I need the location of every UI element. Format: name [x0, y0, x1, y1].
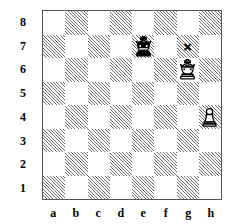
rank-label-8: 8 — [10, 10, 36, 34]
square-h6[interactable] — [199, 58, 221, 82]
square-d2[interactable] — [110, 152, 132, 176]
square-g3[interactable] — [177, 129, 199, 153]
square-d6[interactable] — [110, 58, 132, 82]
square-b1[interactable] — [65, 176, 87, 200]
square-f2[interactable] — [154, 152, 176, 176]
square-d4[interactable] — [110, 105, 132, 129]
square-h2[interactable] — [199, 152, 221, 176]
square-h1[interactable] — [199, 176, 221, 200]
square-b4[interactable] — [65, 105, 87, 129]
square-b2[interactable] — [65, 152, 87, 176]
square-h4[interactable] — [199, 105, 221, 129]
square-c1[interactable] — [88, 176, 110, 200]
square-b5[interactable] — [65, 82, 87, 106]
white-king-icon — [177, 58, 199, 82]
square-h7[interactable] — [199, 35, 221, 59]
square-d3[interactable] — [110, 129, 132, 153]
square-f6[interactable] — [154, 58, 176, 82]
file-label-b: b — [65, 203, 88, 222]
square-a3[interactable] — [43, 129, 65, 153]
cross-mark: × — [177, 35, 199, 59]
square-f7[interactable] — [154, 35, 176, 59]
rank-label-5: 5 — [10, 81, 36, 105]
file-label-a: a — [42, 203, 65, 222]
file-label-row: a b c d e f g h — [42, 203, 222, 222]
square-a2[interactable] — [43, 152, 65, 176]
square-e4[interactable] — [132, 105, 154, 129]
square-d8[interactable] — [110, 11, 132, 35]
square-g1[interactable] — [177, 176, 199, 200]
square-d1[interactable] — [110, 176, 132, 200]
square-e6[interactable] — [132, 58, 154, 82]
square-a6[interactable] — [43, 58, 65, 82]
square-c6[interactable] — [88, 58, 110, 82]
file-label-f: f — [155, 203, 178, 222]
chess-board: × — [42, 10, 222, 200]
rank-label-column: 8 7 6 5 4 3 2 1 — [10, 10, 36, 200]
square-f8[interactable] — [154, 11, 176, 35]
square-g2[interactable] — [177, 152, 199, 176]
square-b3[interactable] — [65, 129, 87, 153]
square-b7[interactable] — [65, 35, 87, 59]
square-a5[interactable] — [43, 82, 65, 106]
file-label-h: h — [200, 203, 223, 222]
square-a8[interactable] — [43, 11, 65, 35]
rank-label-7: 7 — [10, 34, 36, 58]
square-h5[interactable] — [199, 82, 221, 106]
chess-diagram: 8 7 6 5 4 3 2 1 × — [0, 0, 247, 224]
file-label-d: d — [110, 203, 133, 222]
white-pawn-icon — [199, 105, 221, 129]
square-c8[interactable] — [88, 11, 110, 35]
square-a1[interactable] — [43, 176, 65, 200]
square-f1[interactable] — [154, 176, 176, 200]
square-g7[interactable]: × — [177, 35, 199, 59]
square-c2[interactable] — [88, 152, 110, 176]
square-c4[interactable] — [88, 105, 110, 129]
square-e8[interactable] — [132, 11, 154, 35]
rank-label-4: 4 — [10, 105, 36, 129]
rank-label-3: 3 — [10, 129, 36, 153]
square-d5[interactable] — [110, 82, 132, 106]
black-king-icon — [132, 35, 154, 59]
square-e2[interactable] — [132, 152, 154, 176]
square-d7[interactable] — [110, 35, 132, 59]
square-h3[interactable] — [199, 129, 221, 153]
square-a4[interactable] — [43, 105, 65, 129]
square-f4[interactable] — [154, 105, 176, 129]
square-e7[interactable] — [132, 35, 154, 59]
square-h8[interactable] — [199, 11, 221, 35]
square-a7[interactable] — [43, 35, 65, 59]
file-label-e: e — [132, 203, 155, 222]
rank-label-1: 1 — [10, 176, 36, 200]
square-g6[interactable] — [177, 58, 199, 82]
file-label-c: c — [87, 203, 110, 222]
square-g4[interactable] — [177, 105, 199, 129]
rank-label-2: 2 — [10, 153, 36, 177]
square-e5[interactable] — [132, 82, 154, 106]
square-b6[interactable] — [65, 58, 87, 82]
square-c7[interactable] — [88, 35, 110, 59]
rank-label-6: 6 — [10, 58, 36, 82]
square-g8[interactable] — [177, 11, 199, 35]
board-grid: × — [43, 11, 221, 199]
square-c3[interactable] — [88, 129, 110, 153]
square-e1[interactable] — [132, 176, 154, 200]
square-b8[interactable] — [65, 11, 87, 35]
square-f5[interactable] — [154, 82, 176, 106]
square-e3[interactable] — [132, 129, 154, 153]
square-c5[interactable] — [88, 82, 110, 106]
file-label-g: g — [177, 203, 200, 222]
square-g5[interactable] — [177, 82, 199, 106]
square-f3[interactable] — [154, 129, 176, 153]
